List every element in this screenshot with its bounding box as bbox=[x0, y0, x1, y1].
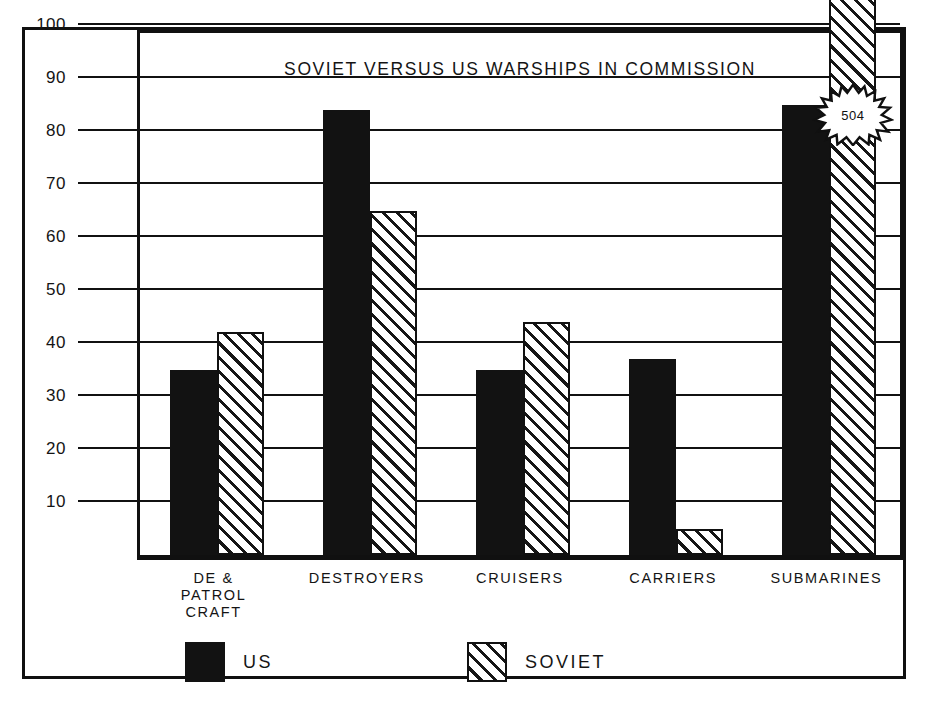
bar-us-cruisers bbox=[476, 370, 523, 556]
bar-us-de-patrol-craft bbox=[170, 370, 217, 556]
y-tick-label-60: 60 bbox=[46, 227, 66, 247]
legend-entry-soviet: SOVIET bbox=[467, 642, 606, 682]
y-tick-label-70: 70 bbox=[46, 174, 66, 194]
starburst-callout-504: 504 bbox=[812, 84, 894, 146]
y-tick-label-10: 10 bbox=[46, 492, 66, 512]
legend-label-soviet: SOVIET bbox=[525, 652, 606, 673]
y-tick-label-20: 20 bbox=[46, 439, 66, 459]
bar-soviet-cruisers bbox=[523, 322, 570, 555]
chart-legend: USSOVIET bbox=[137, 642, 697, 690]
x-axis-label-carriers: CARRIERS bbox=[597, 570, 750, 587]
bar-soviet-destroyers bbox=[370, 211, 417, 556]
plot-area: SOVIET VERSUS US WARSHIPS IN COMMISSION … bbox=[137, 30, 903, 560]
x-axis-label-destroyers: DESTROYERS bbox=[290, 570, 443, 587]
bar-us-destroyers bbox=[323, 110, 370, 555]
y-tick-label-30: 30 bbox=[46, 386, 66, 406]
bars-layer bbox=[140, 33, 900, 555]
y-tick-label-50: 50 bbox=[46, 280, 66, 300]
legend-swatch-us bbox=[185, 642, 225, 682]
x-axis-label-line: CRUISERS bbox=[443, 570, 596, 587]
y-tick-label-90: 90 bbox=[46, 68, 66, 88]
x-axis-label-submarines: SUBMARINES bbox=[750, 570, 903, 587]
x-axis-label-line: DESTROYERS bbox=[290, 570, 443, 587]
y-tick-label-100: 100 bbox=[36, 15, 66, 35]
bar-soviet-carriers bbox=[676, 529, 723, 556]
x-axis-category-labels: DE &PATROLCRAFTDESTROYERSCRUISERSCARRIER… bbox=[137, 564, 903, 636]
x-axis-label-line: SUBMARINES bbox=[750, 570, 903, 587]
legend-label-us: US bbox=[243, 652, 273, 673]
x-axis-label-line: DE & bbox=[137, 570, 290, 587]
gridline-100: 100 bbox=[78, 23, 900, 25]
y-tick-label-80: 80 bbox=[46, 121, 66, 141]
chart-figure-frame: SOVIET VERSUS US WARSHIPS IN COMMISSION … bbox=[22, 27, 906, 679]
x-axis-label-line: CARRIERS bbox=[597, 570, 750, 587]
x-axis-label-line: PATROL bbox=[137, 587, 290, 604]
bar-soviet-de-patrol-craft bbox=[217, 332, 264, 555]
legend-swatch-soviet bbox=[467, 642, 507, 682]
x-axis-label-de-patrol-craft: DE &PATROLCRAFT bbox=[137, 570, 290, 621]
y-tick-label-40: 40 bbox=[46, 333, 66, 353]
bar-us-submarines bbox=[782, 105, 829, 556]
x-axis-label-line: CRAFT bbox=[137, 604, 290, 621]
bar-us-carriers bbox=[629, 359, 676, 555]
legend-entry-us: US bbox=[185, 642, 273, 682]
x-axis-label-cruisers: CRUISERS bbox=[443, 570, 596, 587]
